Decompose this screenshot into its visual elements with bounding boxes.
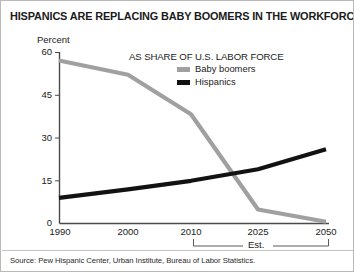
x-tick-label-2025: 2025: [238, 227, 278, 237]
chart-figure: HISPANICS ARE REPLACING BABY BOOMERS IN …: [0, 0, 354, 272]
y-tick-label-30: 30: [28, 133, 52, 143]
x-tick-label-2000: 2000: [108, 227, 148, 237]
x-tick-label-2050: 2050: [306, 227, 346, 237]
x-tick-label-1990: 1990: [40, 227, 80, 237]
source-note: Source: Pew Hispanic Center, Urban Insti…: [10, 256, 255, 265]
x-tick-label-2010: 2010: [171, 227, 211, 237]
y-tick-label-60: 60: [28, 47, 52, 57]
y-tick-label-15: 15: [28, 176, 52, 186]
line-baby-boomers: [59, 61, 326, 222]
series-hispanics-line: [59, 149, 326, 198]
series-baby-boomers-line: [59, 61, 326, 222]
line-hispanics: [59, 149, 326, 198]
axis-lines: [60, 52, 330, 224]
y-tick-label-45: 45: [28, 90, 52, 100]
source-separator: [2, 250, 354, 251]
est-annotation-label: Est.: [248, 240, 264, 250]
